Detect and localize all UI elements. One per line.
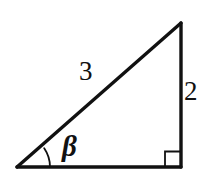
angle-beta-label: β: [62, 132, 77, 161]
hypotenuse-line: [17, 23, 181, 167]
hypotenuse-length-label: 3: [79, 58, 93, 85]
right-triangle-figure: 3 2 β: [0, 0, 203, 177]
triangle-diagram-canvas: [0, 0, 203, 177]
angle-arc: [44, 148, 50, 167]
right-angle-square-icon: [165, 152, 181, 168]
opposite-side-length-label: 2: [184, 78, 198, 105]
